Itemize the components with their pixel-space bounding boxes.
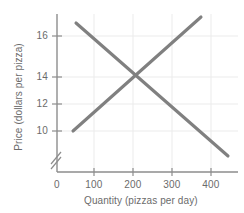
y-tick-label-14: 14 xyxy=(22,72,48,82)
demand-curve xyxy=(76,23,228,156)
gridlines-vertical xyxy=(94,14,211,172)
y-axis-label: Price (dollars per pizza) xyxy=(14,27,24,167)
y-axis-break-icon xyxy=(51,152,61,169)
x-tick-label-300: 300 xyxy=(159,180,185,190)
x-tick-label-0: 0 xyxy=(44,180,70,190)
x-tick-label-100: 100 xyxy=(81,180,107,190)
x-tick-label-400: 400 xyxy=(198,180,224,190)
y-tick-label-16: 16 xyxy=(22,31,48,41)
chart-figure: 16 14 12 10 0 100 200 300 400 Price (dol… xyxy=(0,0,244,213)
x-axis-label: Quantity (pizzas per day) xyxy=(84,196,198,206)
x-tick-label-200: 200 xyxy=(120,180,146,190)
y-tick-label-12: 12 xyxy=(22,99,48,109)
y-tick-label-10: 10 xyxy=(22,126,48,136)
